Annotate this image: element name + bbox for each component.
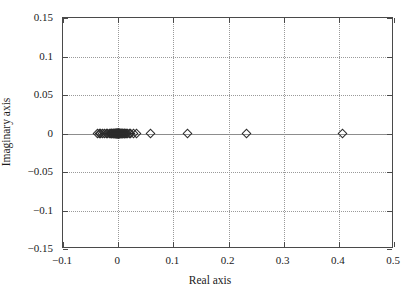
x-axis-tick	[173, 242, 174, 247]
y-axis-tick-right	[387, 18, 392, 19]
y-axis-tick	[63, 172, 68, 173]
x-axis-tick-label: 0.4	[331, 254, 345, 266]
y-axis-tick-right	[387, 249, 392, 250]
y-axis-tick-label: −0.05	[0, 165, 53, 177]
y-axis-tick-label: 0.15	[0, 11, 53, 23]
x-gridline	[173, 18, 174, 247]
y-axis-tick-right	[387, 172, 392, 173]
x-axis-tick-label: −0.1	[52, 254, 72, 266]
x-axis-tick-top	[229, 18, 230, 23]
y-axis-tick-label: 0.05	[0, 88, 53, 100]
y-axis-tick	[63, 211, 68, 212]
data-point-marker	[241, 129, 251, 139]
x-axis-tick-top	[173, 18, 174, 23]
x-axis-tick-label: 0.2	[221, 254, 235, 266]
y-axis-tick	[63, 95, 68, 96]
y-axis-tick-label: −0.1	[0, 204, 53, 216]
y-axis-tick	[63, 18, 68, 19]
x-axis-tick-top	[284, 18, 285, 23]
y-axis-tick-right	[387, 134, 392, 135]
y-gridline	[63, 172, 392, 173]
y-axis-tick-label: 0.1	[0, 50, 53, 62]
pole-zero-plot-figure: Real axis Imaginary axis −0.100.10.20.30…	[0, 0, 420, 294]
y-axis-tick-right	[387, 57, 392, 58]
y-gridline	[63, 95, 392, 96]
y-axis-tick	[63, 249, 68, 250]
x-axis-tick-top	[394, 18, 395, 23]
x-axis-tick-label: 0	[114, 254, 120, 266]
data-point-marker	[182, 129, 192, 139]
x-axis-tick-label: 0.1	[165, 254, 179, 266]
x-axis-tick	[339, 242, 340, 247]
x-axis-tick-top	[118, 18, 119, 23]
x-axis-tick	[394, 242, 395, 247]
y-axis-tick	[63, 57, 68, 58]
x-axis-tick-label: 0.3	[276, 254, 290, 266]
y-axis-tick-label: −0.15	[0, 242, 53, 254]
x-gridline	[229, 18, 230, 247]
x-axis-tick-label: 0.5	[386, 254, 400, 266]
data-point-marker	[146, 129, 156, 139]
y-axis-tick-right	[387, 95, 392, 96]
x-axis-tick	[63, 242, 64, 247]
x-axis-tick	[284, 242, 285, 247]
x-axis-tick	[229, 242, 230, 247]
x-axis-tick-top	[339, 18, 340, 23]
y-axis-tick-right	[387, 211, 392, 212]
y-axis-tick-label: 0	[0, 127, 53, 139]
plot-area	[62, 17, 393, 248]
y-gridline	[63, 57, 392, 58]
x-gridline	[284, 18, 285, 247]
x-axis-label: Real axis	[0, 274, 420, 286]
x-axis-tick	[118, 242, 119, 247]
y-axis-tick	[63, 134, 68, 135]
y-gridline	[63, 211, 392, 212]
